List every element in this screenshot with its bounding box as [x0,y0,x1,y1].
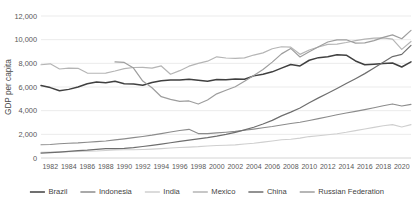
legend-label: Mexico [211,187,235,196]
legend-label: India [163,187,180,196]
x-tick-label: 2000 [209,163,225,170]
y-tick-label: 4,000 [19,106,38,115]
series-line-russian-federation [115,30,411,104]
legend-label: China [267,187,288,196]
x-tick-label: 2012 [320,163,336,170]
y-tick-label: 2,000 [19,130,38,139]
gridlines-group [41,16,411,158]
x-tick-label: 2010 [301,163,317,170]
x-tick-label: 1990 [116,163,132,170]
x-tick-label: 1982 [42,163,58,170]
x-tick-label: 1994 [153,163,169,170]
legend-item-brazil[interactable]: Brazil [30,187,68,196]
legend-item-china[interactable]: China [248,187,287,196]
legend-item-mexico[interactable]: Mexico [193,187,236,196]
y-tick-label: 10,000 [14,35,37,44]
y-tick-label: 8,000 [19,59,38,68]
x-tick-label: 2020 [394,163,410,170]
x-tick-label: 1986 [79,163,95,170]
x-tick-label: 2018 [375,163,391,170]
x-tick-label: 2002 [227,163,243,170]
x-tick-label: 1988 [98,163,114,170]
legend-group: BrazilIndonesiaIndiaMexicoChinaRussian F… [30,187,384,196]
y-tick-label: 0 [33,154,37,163]
gdp-per-capita-line-chart: 02,0004,0006,0008,00010,00012,000 198219… [0,0,414,205]
legend-label: Russian Federation [318,187,384,196]
legend-item-indonesia[interactable]: Indonesia [80,187,132,196]
y-axis-title-group: GDP per capita [4,59,13,115]
legend-label: Indonesia [99,187,133,196]
series-line-india [41,125,411,153]
legend-label: Brazil [48,187,67,196]
y-axis-title: GDP per capita [4,59,13,115]
y-tick-label: 6,000 [19,83,38,92]
y-tick-label: 12,000 [14,12,37,21]
x-tick-label: 2014 [338,163,354,170]
x-tick-label: 1992 [135,163,151,170]
x-tick-labels-group: 1982198419861988199019921994199619982000… [42,163,409,170]
chart-canvas: 02,0004,0006,0008,00010,00012,000 198219… [0,0,414,205]
x-tick-label: 2006 [264,163,280,170]
y-tick-labels-group: 02,0004,0006,0008,00010,00012,000 [14,12,37,163]
x-tick-label: 1998 [190,163,206,170]
x-tick-label: 1996 [172,163,188,170]
x-tick-label: 2008 [283,163,299,170]
x-tick-label: 2004 [246,163,262,170]
x-tick-label: 1984 [61,163,77,170]
series-line-indonesia [41,104,411,145]
x-tick-label: 2016 [357,163,373,170]
legend-item-russian-federation[interactable]: Russian Federation [300,187,384,196]
legend-item-india[interactable]: India [145,187,181,196]
